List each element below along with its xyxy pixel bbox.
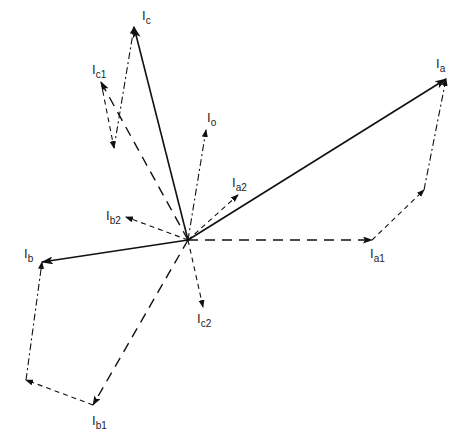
- phasor-ib: [42, 240, 188, 262]
- phasor-diagram: Ia Ib Ic Ia1 Ib1 Ic1 Ia2 Ib2 Ic2 Io: [0, 0, 465, 441]
- label-ia: Ia: [436, 56, 446, 74]
- phasor-ic2: [188, 240, 203, 307]
- phasor-ib1: [93, 240, 188, 405]
- phasor-ia2: [188, 195, 238, 240]
- label-ib: Ib: [24, 246, 34, 264]
- label-ia1: Ia1: [370, 246, 385, 264]
- label-ia2: Ia2: [232, 175, 247, 193]
- phasor-ia: [188, 79, 446, 240]
- phasor-io: [188, 130, 206, 240]
- label-io: Io: [207, 110, 217, 128]
- label-ic1: Ic1: [92, 62, 107, 80]
- label-ic: Ic: [142, 8, 151, 26]
- label-ib1: Ib1: [92, 413, 107, 431]
- construction-line-a-zero: [424, 79, 446, 190]
- label-ic2: Ic2: [197, 311, 212, 329]
- label-ib2: Ib2: [106, 208, 121, 226]
- construction-line-c-zero: [114, 27, 134, 148]
- construction-line-a: [372, 190, 424, 240]
- construction-line-b: [26, 380, 93, 405]
- phasor-ib2: [126, 217, 188, 240]
- construction-line-b-zero: [26, 262, 42, 380]
- phasor-ic: [134, 27, 188, 240]
- construction-line-c: [101, 82, 114, 148]
